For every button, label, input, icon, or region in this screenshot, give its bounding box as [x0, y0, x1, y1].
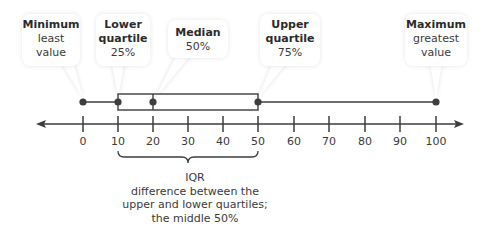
callout-upper-quartile: Upper quartile 75%: [260, 14, 320, 66]
callout-title: Lower: [96, 18, 150, 32]
callout-title: Median: [168, 26, 228, 40]
maximum-dot: [432, 98, 439, 105]
callout-title: quartile: [260, 32, 320, 46]
callout-title: Upper: [260, 18, 320, 32]
callout-title: Minimum: [22, 18, 80, 32]
callout-line: value: [405, 46, 467, 60]
callout-line: greatest: [405, 32, 467, 46]
minimum-dot: [79, 98, 86, 105]
tick-label: 20: [138, 135, 168, 148]
iqr-annotation: IQR difference between the upper and low…: [110, 171, 280, 225]
tick-label: 80: [350, 135, 380, 148]
callout-line: 75%: [260, 46, 320, 60]
callout-median: Median 50%: [168, 20, 228, 58]
callout-line: 25%: [96, 46, 150, 60]
callout-line: value: [22, 46, 80, 60]
iqr-box: [118, 94, 258, 110]
tick-label: 40: [208, 135, 238, 148]
callout-line: least: [22, 32, 80, 46]
tick-label: 50: [243, 135, 273, 148]
median-dot: [149, 98, 156, 105]
lower-quartile-dot: [114, 98, 121, 105]
iqr-description-line: the middle 50%: [110, 212, 280, 226]
callout-title: Maximum: [405, 18, 467, 32]
tick-label: 0: [68, 135, 98, 148]
callout-title: quartile: [96, 32, 150, 46]
callout-lower-quartile: Lower quartile 25%: [96, 14, 150, 66]
iqr-description-line: upper and lower quartiles;: [110, 198, 280, 212]
tick-label: 90: [385, 135, 415, 148]
tick-label: 100: [421, 135, 451, 148]
upper-quartile-dot: [254, 98, 261, 105]
callout-line: 50%: [168, 40, 228, 54]
iqr-brace: [118, 151, 258, 163]
tick-label: 30: [173, 135, 203, 148]
callout-minimum: Minimum least value: [22, 14, 80, 66]
tick-label: 10: [103, 135, 133, 148]
callout-maximum: Maximum greatest value: [405, 14, 467, 66]
iqr-description-line: difference between the: [110, 185, 280, 199]
tick-label: 60: [279, 135, 309, 148]
tick-label: 70: [314, 135, 344, 148]
iqr-label: IQR: [110, 171, 280, 185]
